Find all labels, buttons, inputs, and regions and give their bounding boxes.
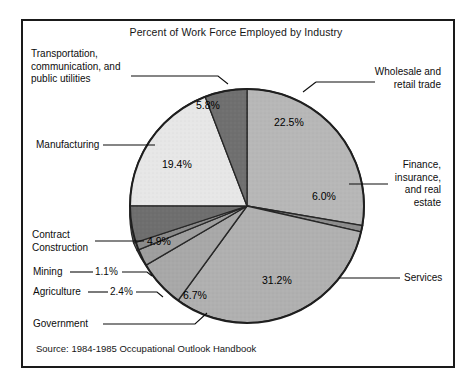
leader-line-agriculture-2 bbox=[136, 292, 163, 297]
value-manufacturing: 19.4% bbox=[162, 158, 192, 170]
label-finance: Finance, insurance, and real estate bbox=[333, 159, 441, 209]
label-transportation: Transportation, communication, and publi… bbox=[31, 48, 121, 86]
value-wholesale: 22.5% bbox=[274, 116, 304, 128]
leader-line-government bbox=[103, 313, 207, 324]
pie-chart-figure: Percent of Work Force Employed by Indust… bbox=[0, 0, 472, 391]
label-wholesale: Wholesale and retail trade bbox=[303, 66, 441, 91]
value-government: 6.7% bbox=[183, 289, 207, 301]
label-contract-construction: Contract Construction bbox=[32, 229, 88, 254]
pie-slices bbox=[130, 89, 364, 323]
label-agriculture: Agriculture bbox=[33, 286, 81, 297]
value-mining: 1.1% bbox=[95, 266, 118, 277]
value-contract-construction: 4.9% bbox=[147, 235, 171, 247]
label-manufacturing: Manufacturing bbox=[36, 139, 99, 152]
label-services: Services bbox=[404, 272, 442, 285]
label-mining: Mining bbox=[33, 266, 62, 277]
label-government: Government bbox=[33, 318, 88, 331]
chart-source-note: Source: 1984-1985 Occupational Outlook H… bbox=[36, 343, 256, 354]
value-services: 31.2% bbox=[262, 274, 292, 286]
leader-line-mining-2 bbox=[122, 272, 152, 276]
value-finance: 6.0% bbox=[312, 190, 336, 202]
value-agriculture: 2.4% bbox=[110, 286, 133, 297]
value-transportation: 5.8% bbox=[196, 99, 220, 111]
leader-line-transportation bbox=[131, 76, 228, 84]
